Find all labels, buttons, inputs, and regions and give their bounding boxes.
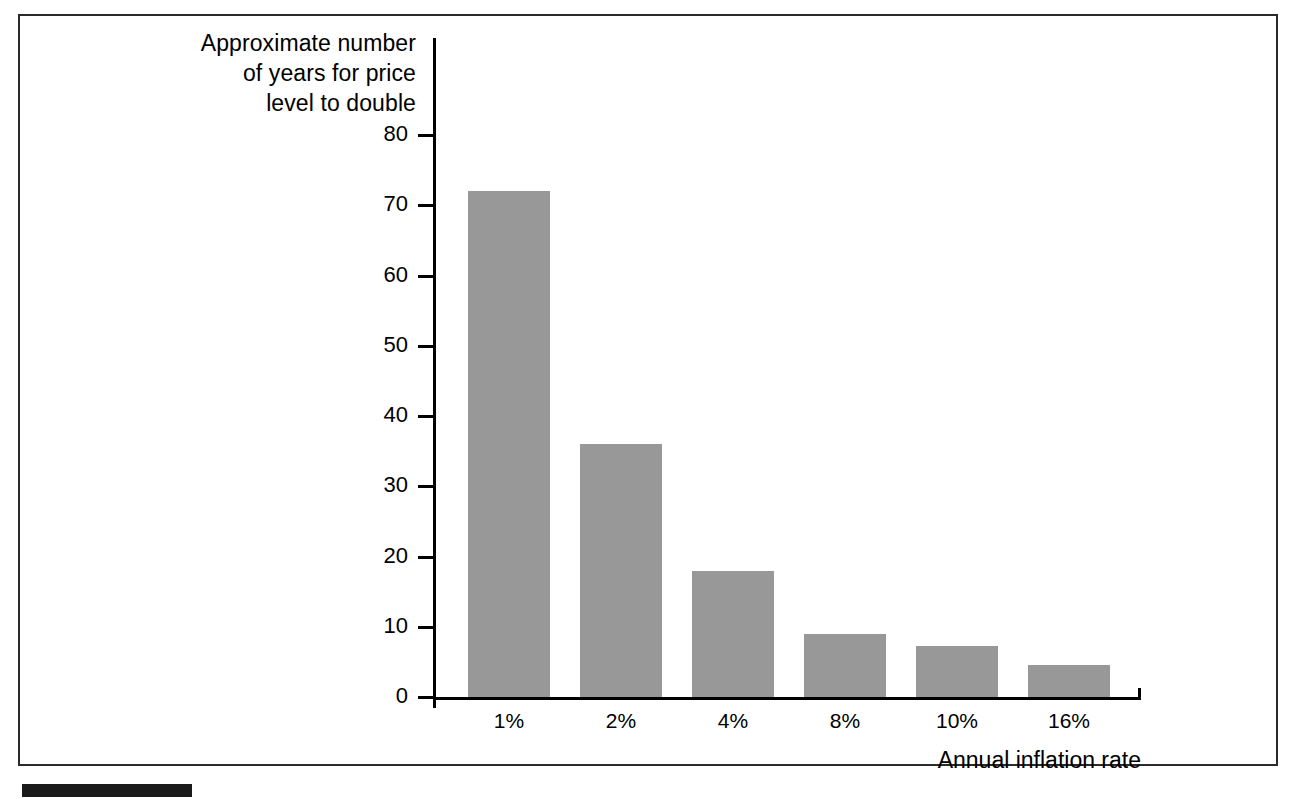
- bar: [916, 646, 998, 697]
- y-axis-tick: [418, 415, 434, 418]
- y-axis-tick-label: 10: [338, 615, 408, 637]
- y-axis-tick: [418, 345, 434, 348]
- caption-rule: [22, 784, 192, 797]
- y-axis-tick-label: 40: [338, 404, 408, 426]
- bar: [1028, 665, 1110, 697]
- bars-group: [436, 100, 1141, 697]
- y-axis-title-line-1: Approximate number: [120, 28, 416, 58]
- y-axis-tick-label: 70: [338, 193, 408, 215]
- x-axis-line: [433, 697, 1141, 700]
- y-axis-title-line-2: of years for price: [120, 58, 416, 88]
- y-axis-tick: [418, 556, 434, 559]
- x-axis-tick-label: 4%: [672, 710, 794, 732]
- y-axis-tick: [418, 485, 434, 488]
- bar: [692, 571, 774, 697]
- y-axis-tick: [418, 204, 434, 207]
- x-axis-tick-label: 10%: [896, 710, 1018, 732]
- y-axis-tick: [418, 626, 434, 629]
- y-axis-title-line-3: level to double: [120, 88, 416, 118]
- bar: [468, 191, 550, 697]
- bar: [580, 444, 662, 697]
- y-axis-tick-label: 20: [338, 545, 408, 567]
- x-axis-tick-label: 2%: [560, 710, 682, 732]
- y-axis-tick: [418, 275, 434, 278]
- x-axis-tick-label: 16%: [1008, 710, 1130, 732]
- bar: [804, 634, 886, 697]
- y-axis-tick-label: 0: [338, 685, 408, 707]
- y-axis-tick-label: 30: [338, 474, 408, 496]
- x-axis-title: Annual inflation rate: [700, 748, 1141, 772]
- x-axis-tick-label: 1%: [448, 710, 570, 732]
- y-axis-title: Approximate number of years for price le…: [120, 28, 416, 118]
- y-axis-tick: [418, 696, 434, 699]
- y-axis-tick-label: 60: [338, 264, 408, 286]
- y-axis-tick-label: 50: [338, 334, 408, 356]
- y-axis-tick: [418, 134, 434, 137]
- bar-chart: Approximate number of years for price le…: [0, 0, 1294, 799]
- x-axis-tick-label: 8%: [784, 710, 906, 732]
- y-axis-tick-label: 80: [338, 123, 408, 145]
